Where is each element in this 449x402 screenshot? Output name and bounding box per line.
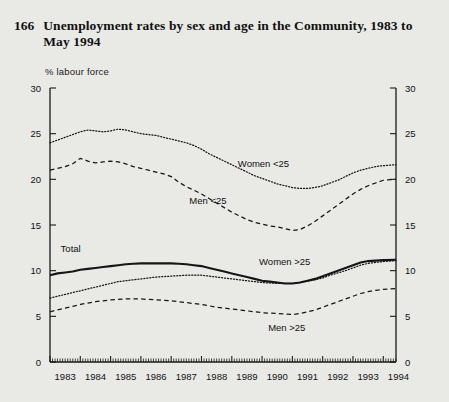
chart-plot-area: 0055101015152020252530301983198419851986… [0,0,449,402]
y-tick-label-right: 25 [405,128,416,139]
series-annotation-men-25: Men >25 [268,322,305,333]
x-tick-label: 1989 [236,371,257,382]
x-tick-label: 1990 [267,371,288,382]
y-tick-label-right: 15 [405,220,416,231]
series-annotation-women-25: Women >25 [259,256,310,267]
y-tick-label-right: 10 [405,265,416,276]
series-annotation-total: Total [61,243,81,254]
annotation-group: Women <25Men <25TotalWomen >25Men >25 [61,158,311,333]
x-tick-label: 1985 [115,371,136,382]
y-tick-label-left: 10 [30,265,41,276]
y-tick-label-right: 30 [405,83,416,94]
y-tick-label-right: 0 [405,357,410,368]
x-tick-label: 1988 [206,371,227,382]
y-tick-label-left: 5 [36,311,41,322]
x-tick-label: 1987 [176,371,197,382]
x-tick-label: 1986 [145,371,166,382]
x-tick-label: 1992 [327,371,348,382]
series-annotation-women-25: Women <25 [238,158,289,169]
y-tick-label-left: 0 [36,357,41,368]
y-tick-label-left: 25 [30,128,41,139]
chart-svg: 0055101015152020252530301983198419851986… [0,0,449,402]
series-group [50,129,396,314]
series-line-men-25 [50,288,396,314]
x-tick-label: 1984 [85,371,106,382]
x-tick-label: 1994 [388,371,409,382]
axes-group: 0055101015152020252530301983198419851986… [30,83,415,383]
x-tick-label: 1993 [358,371,379,382]
x-tick-label: 1983 [55,371,76,382]
y-tick-label-right: 5 [405,311,410,322]
y-tick-label-left: 20 [30,174,41,185]
series-annotation-men-25: Men <25 [189,195,226,206]
figure-container: 166 Unemployment rates by sex and age in… [0,0,449,402]
y-tick-label-right: 20 [405,174,416,185]
series-line-women-25 [50,129,396,188]
x-tick-label: 1991 [297,371,318,382]
y-tick-label-left: 30 [30,83,41,94]
y-tick-label-left: 15 [30,220,41,231]
